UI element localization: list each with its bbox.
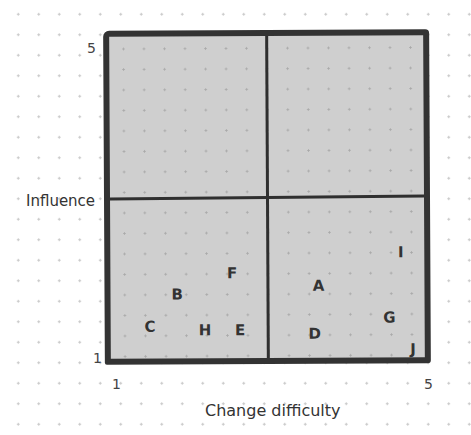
data-point-c: C [144, 317, 155, 335]
y-tick-min: 1 [93, 350, 102, 366]
x-tick-min: 1 [112, 376, 121, 392]
data-point-d: D [309, 325, 322, 343]
data-point-a: A [313, 276, 325, 294]
data-point-j: J [410, 340, 416, 358]
x-axis-title: Change difficulty [205, 401, 341, 420]
y-axis-title: Influence [26, 192, 95, 210]
plot-area: ABCDEFGHIJ [103, 29, 431, 365]
data-point-b: B [171, 285, 183, 303]
y-tick-max: 5 [87, 40, 96, 56]
x-tick-max: 5 [424, 376, 433, 392]
data-point-g: G [383, 308, 395, 326]
data-point-f: F [227, 265, 237, 283]
data-point-h: H [199, 321, 212, 339]
data-point-e: E [235, 321, 245, 339]
data-point-i: I [398, 244, 404, 262]
